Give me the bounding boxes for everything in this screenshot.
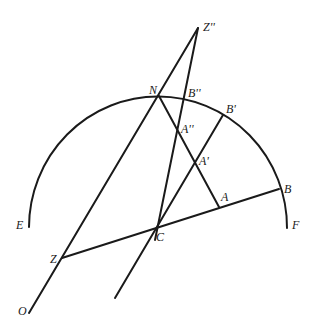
- label-C: C: [156, 230, 165, 244]
- label-B: B: [284, 182, 292, 196]
- label-N: N: [148, 83, 158, 97]
- line-Z-B: [62, 189, 279, 258]
- label-App: A'': [180, 122, 194, 136]
- line-O-Zpp: [29, 28, 198, 313]
- label-Zpp: Z'': [203, 20, 215, 34]
- label-Ap: A': [198, 154, 209, 168]
- label-Bpp: B'': [188, 86, 201, 100]
- label-Bp: B': [226, 102, 236, 116]
- label-E: E: [15, 218, 24, 232]
- geometry-diagram: Z'' N B'' B' A'' A' A B C Z E F O: [0, 0, 313, 332]
- label-O: O: [18, 304, 27, 318]
- label-Z: Z: [50, 252, 57, 266]
- label-F: F: [291, 218, 300, 232]
- circle-arc-EF: [29, 96, 287, 228]
- line-N-A: [159, 96, 219, 207]
- label-A: A: [220, 190, 229, 204]
